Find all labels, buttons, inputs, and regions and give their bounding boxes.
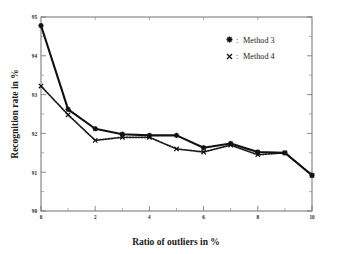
x-tick-label: 6 [202,214,205,220]
chart-legend: : Method 3 : Method 4 [227,36,275,62]
legend-marker-method-4 [227,54,232,59]
y-tick-label: 94 [32,53,38,59]
recognition-rate-line-chart: 95 94 93 92 91 90 [0,0,342,254]
plot-frame [41,17,312,211]
x-tick-label: 8 [257,214,260,220]
y-tick-label: 93 [32,92,38,98]
y-tick-label: 91 [32,170,38,176]
x-axis-title: Ratio of outliers in % [132,237,220,247]
y-tick-label: 92 [32,131,38,137]
series-method-4-group [39,84,314,178]
x-axis-ticks [41,206,312,211]
x-tick-label: 10 [309,214,315,220]
series-line-method-4 [41,86,312,175]
series-markers-method-4 [39,84,314,178]
y-axis-ticks-right [307,17,312,211]
legend-label-method-3: Method 3 [243,36,275,45]
legend-separator-method-3: : [236,36,238,45]
y-axis-title: Recognition rate in % [10,69,20,158]
series-line-method-3 [41,26,312,176]
series-markers-method-3 [38,23,314,178]
x-tick-label: 2 [94,214,97,220]
y-tick-label: 90 [32,208,38,214]
y-tick-label: 95 [32,14,38,20]
series-method-3-group [38,23,314,178]
x-tick-labels: 0 2 4 6 8 10 [40,214,315,220]
x-tick-label: 0 [40,214,43,220]
y-axis-ticks [41,17,46,211]
legend-label-method-4: Method 4 [243,52,275,61]
legend-separator-method-4: : [236,52,238,61]
legend-marker-method-3 [227,37,233,43]
x-tick-label: 4 [148,214,151,220]
y-tick-labels: 95 94 93 92 91 90 [32,14,38,214]
figure-container: 95 94 93 92 91 90 [0,0,342,254]
